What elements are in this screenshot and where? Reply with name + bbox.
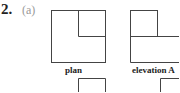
elevation-a-caption: elevation A (132, 65, 175, 75)
plan-drawing (52, 11, 106, 63)
elevation-a-drawing (131, 11, 180, 63)
lower-drawings (79, 79, 180, 93)
drawings (0, 0, 179, 92)
plan-caption: plan (65, 65, 82, 75)
